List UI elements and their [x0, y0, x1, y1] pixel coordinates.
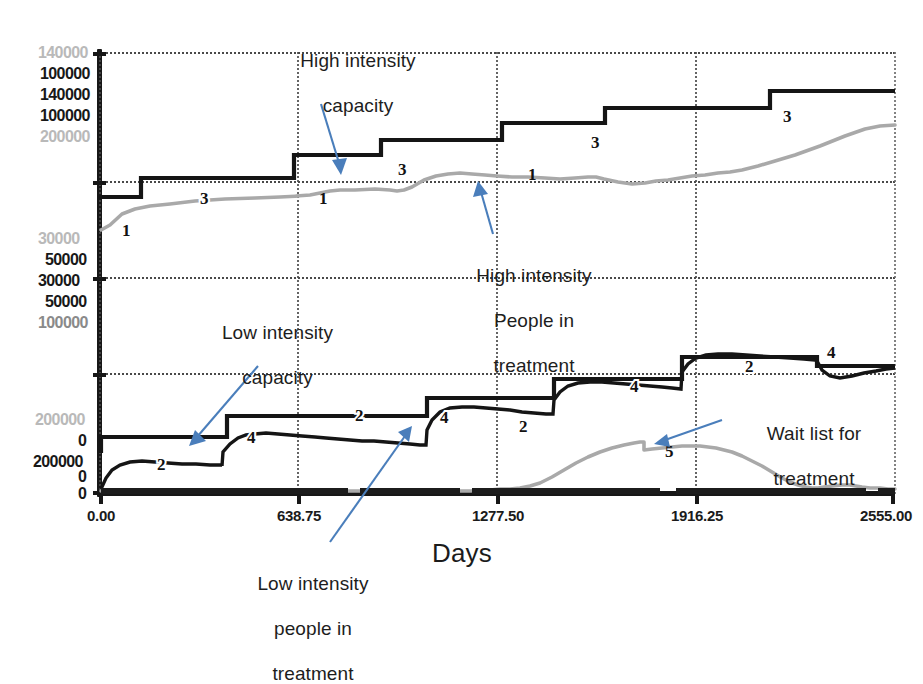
annotation-wait-list: Wait list for treatment — [728, 401, 900, 513]
annotation-line: Wait list for — [728, 423, 900, 445]
annotation-low-intensity-capacity: Low intensity capacity — [190, 300, 365, 412]
arrowhead-low-capacity — [189, 430, 206, 446]
arrow-high-people — [481, 192, 493, 234]
annotation-line: High intensity — [441, 265, 627, 287]
annotation-high-intensity-people: High intensity People in treatment — [441, 243, 627, 400]
annotation-line: Low intensity — [190, 322, 365, 344]
annotation-low-intensity-people: Low intensity people in treatment — [222, 551, 404, 684]
annotation-line: Low intensity — [222, 573, 404, 595]
arrowhead-low-people — [398, 426, 412, 442]
arrowhead-wait-list — [654, 434, 670, 447]
annotation-line: treatment — [222, 663, 404, 684]
arrow-wait-list — [665, 420, 722, 440]
annotation-line: treatment — [728, 468, 900, 490]
annotation-line: People in — [441, 310, 627, 332]
annotation-line: High intensity — [272, 50, 444, 72]
arrowhead-high-people — [473, 181, 488, 197]
arrowhead-high-capacity — [332, 158, 347, 175]
arrow-low-people — [330, 436, 405, 542]
annotation-line: capacity — [190, 367, 365, 389]
annotation-line: treatment — [441, 355, 627, 377]
annotation-line: capacity — [272, 95, 444, 117]
annotation-line: people in — [222, 618, 404, 640]
annotation-high-intensity-capacity: High intensity capacity — [272, 28, 444, 140]
